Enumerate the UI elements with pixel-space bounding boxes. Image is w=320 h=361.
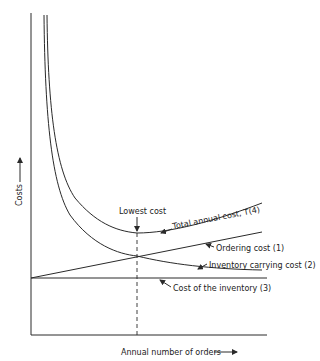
total-cost-label: Total annual cost, T(4)	[171, 205, 261, 231]
total-cost-curve	[47, 15, 262, 233]
carrying-cost-label: Inventory carrying cost (2)	[209, 261, 316, 270]
cost-diagram: Lowest cost Total annual cost, T(4) Orde…	[0, 0, 320, 361]
ordering-cost-line	[31, 232, 262, 278]
ordering-cost-pointer	[206, 244, 214, 247]
ordering-cost-label: Ordering cost (1)	[216, 244, 284, 253]
inventory-cost-pointer	[160, 280, 171, 287]
y-axis-label: Costs	[15, 184, 24, 206]
x-axis-label: Annual number of orders	[121, 348, 221, 357]
inventory-cost-label: Cost of the inventory (3)	[173, 284, 271, 293]
lowest-cost-label: Lowest cost	[119, 207, 166, 216]
